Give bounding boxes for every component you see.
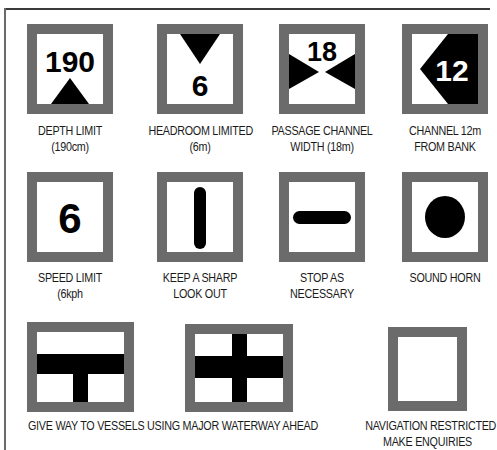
speed-limit-value: 6 [58,195,81,242]
passage-width-value: 18 [307,37,337,67]
label-stop-as-necessary: STOP AS NECESSARY [270,270,373,302]
sign-give-way-major-waterway [27,322,134,412]
sign-stop-as-necessary [279,172,365,262]
label-keep-sharp-lookout: KEEP A SHARP LOOK OUT [148,270,251,302]
label-line1: STOP AS [270,270,373,286]
label-line1: SPEED LIMIT [18,270,121,286]
label-line2: WIDTH (18m) [270,139,373,155]
sign-sound-horn [402,172,488,262]
dot-icon [412,182,478,252]
horizontal-bar-icon [289,182,355,252]
label-line1: KEEP A SHARP [148,270,251,286]
label-give-way-major-waterway: GIVE WAY TO VESSELS USING MAJOR WATERWAY… [23,418,324,434]
label-line2: FROM BANK [393,139,496,155]
channel-bank-arrow-icon: 12 [412,34,478,104]
label-line1: PASSAGE CHANNEL [270,123,373,139]
label-line2: MAKE ENQUIRIES [365,434,490,450]
label-line1: NAVIGATION RESTRICTED [365,418,490,434]
headroom-value: 6 [192,69,209,102]
label-channel-from-bank: CHANNEL 12m FROM BANK [393,123,496,155]
sign-headroom-limited: 6 [157,24,243,114]
headroom-symbol-icon: 6 [167,34,233,104]
frame-left-line [4,8,6,450]
channel-bank-value: 12 [435,54,468,87]
label-line1: HEADROOM LIMITED [148,123,251,139]
sign-speed-limit: 6 [27,172,113,262]
speed-limit-symbol-icon: 6 [37,182,103,252]
label-depth-limit: DEPTH LIMIT (190cm) [18,123,121,155]
vertical-bar-icon [167,182,233,252]
label-sound-horn: SOUND HORN [393,270,496,286]
passage-width-symbol-icon: 18 [289,34,355,104]
label-line1: GIVE WAY TO VESSELS USING MAJOR WATERWAY… [23,418,324,434]
sign-passage-channel-width: 18 [279,24,365,114]
label-line2: (6kph [18,286,121,302]
cross-icon [195,334,283,402]
label-line2: (6m) [148,139,251,155]
t-junction-icon [37,332,124,402]
label-navigation-restricted: NAVIGATION RESTRICTED MAKE ENQUIRIES [365,418,490,450]
sign-navigation-restricted [388,327,467,411]
label-headroom-limited: HEADROOM LIMITED (6m) [148,123,251,155]
sign-major-waterway-crossing [185,324,293,412]
depth-limit-value: 190 [45,45,95,78]
sign-channel-from-bank: 12 [402,24,488,114]
label-line2: NECESSARY [270,286,373,302]
label-line1: SOUND HORN [393,270,496,286]
label-speed-limit: SPEED LIMIT (6kph [18,270,121,302]
label-line2: LOOK OUT [148,286,251,302]
label-line1: CHANNEL 12m [393,123,496,139]
frame-top-line [4,8,490,10]
sign-depth-limit: 190 [27,24,113,114]
sign-keep-sharp-lookout [157,172,243,262]
label-passage-channel-width: PASSAGE CHANNEL WIDTH (18m) [270,123,373,155]
label-line1: DEPTH LIMIT [18,123,121,139]
depth-limit-symbol-icon: 190 [37,34,103,104]
label-line2: (190cm) [18,139,121,155]
